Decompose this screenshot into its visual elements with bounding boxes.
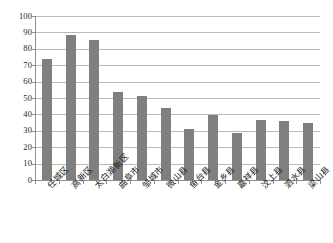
- x-axis-category-label: 微山县: [164, 164, 190, 190]
- bar-chart: 0102030405060708090100 任城区高新区太白湖新区曲阜市邹城市…: [0, 0, 333, 243]
- x-axis-category-labels: 任城区高新区太白湖新区曲阜市邹城市微山县鱼台县金乡县嘉祥县汶上县泗水县梁山县: [0, 0, 333, 243]
- x-axis-category-label: 高新区: [69, 164, 95, 190]
- x-axis-category-label: 邹城市: [140, 164, 166, 190]
- x-axis-category-label: 梁山县: [306, 164, 332, 190]
- x-axis-category-label: 汶上县: [259, 164, 285, 190]
- x-axis-category-label: 嘉祥县: [235, 164, 261, 190]
- x-axis-category-label: 泗水县: [282, 164, 308, 190]
- x-axis-category-label: 鱼台县: [187, 164, 213, 190]
- x-axis-category-label: 任城区: [45, 164, 71, 190]
- x-axis-category-label: 金乡县: [211, 164, 237, 190]
